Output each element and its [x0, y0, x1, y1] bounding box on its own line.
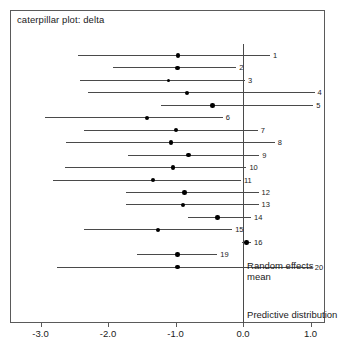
point-estimate-marker: [169, 140, 174, 145]
x-axis-tick-label: 0.0: [236, 328, 249, 339]
point-estimate-marker: [175, 265, 180, 270]
interval-row: 15: [0, 224, 338, 235]
x-axis-tick: [176, 323, 177, 327]
interval-row: 4: [0, 87, 338, 98]
page-title: caterpillar plot: delta: [17, 14, 104, 25]
point-estimate-marker: [186, 153, 191, 158]
confidence-interval-line: [45, 117, 223, 118]
confidence-interval-line: [78, 55, 270, 56]
point-estimate-marker: [171, 165, 176, 170]
study-label: 15: [235, 224, 243, 235]
interval-row: 1: [0, 50, 338, 61]
point-estimate-marker: [174, 128, 179, 133]
point-estimate-marker: [244, 240, 249, 245]
study-label: 10: [249, 162, 257, 173]
x-axis-tick-label: 1.0: [304, 328, 317, 339]
point-estimate-marker: [210, 103, 215, 108]
study-label: 13: [262, 199, 270, 210]
x-axis-tick-label: -1.0: [167, 328, 183, 339]
plot-annotation: Random effects mean: [247, 260, 325, 283]
point-estimate-marker: [176, 53, 181, 58]
interval-row: 5: [0, 100, 338, 111]
confidence-interval-line: [84, 130, 257, 131]
point-estimate-marker: [175, 66, 180, 71]
confidence-interval-line: [65, 167, 246, 168]
study-label: 8: [278, 137, 282, 148]
point-estimate-marker: [145, 116, 150, 121]
interval-row: 14: [0, 212, 338, 223]
study-label: 11: [244, 175, 252, 186]
study-label: 14: [254, 212, 262, 223]
plot-annotation: Predictive distribution: [247, 309, 337, 321]
study-label: 1: [273, 50, 277, 61]
study-label: 16: [254, 237, 262, 248]
study-label: 6: [226, 112, 230, 123]
x-axis-tick: [41, 323, 42, 327]
study-label: 12: [262, 187, 270, 198]
point-estimate-marker: [167, 79, 170, 82]
confidence-interval-line: [53, 180, 241, 181]
interval-row: 3: [0, 75, 338, 86]
point-estimate-marker: [156, 228, 161, 233]
study-label: 9: [262, 150, 266, 161]
interval-row: 8: [0, 137, 338, 148]
interval-row: 16: [0, 237, 338, 248]
point-estimate-marker: [175, 252, 180, 257]
confidence-interval-line: [80, 80, 245, 81]
interval-row: 12: [0, 187, 338, 198]
study-label: 19: [220, 249, 228, 260]
study-label: 4: [318, 87, 322, 98]
point-estimate-marker: [151, 178, 156, 183]
study-label: 2: [239, 62, 243, 73]
confidence-interval-line: [126, 192, 258, 193]
interval-row: 10: [0, 162, 338, 173]
point-estimate-marker: [215, 215, 220, 220]
x-axis-tick-label: -2.0: [100, 328, 116, 339]
interval-row: 13: [0, 199, 338, 210]
x-axis-tick: [243, 323, 244, 327]
interval-row: 2: [0, 62, 338, 73]
interval-row: 11: [0, 175, 338, 186]
confidence-interval-line: [88, 92, 315, 93]
study-label: 5: [316, 100, 320, 111]
point-estimate-marker: [185, 91, 190, 96]
study-label: 7: [261, 125, 265, 136]
confidence-interval-line: [128, 155, 259, 156]
interval-row: 7: [0, 125, 338, 136]
interval-row: 19: [0, 249, 338, 260]
x-axis-tick-label: -3.0: [32, 328, 48, 339]
point-estimate-marker: [182, 190, 187, 195]
x-axis-tick: [108, 323, 109, 327]
confidence-interval-line: [161, 105, 313, 106]
caterpillar-plot-figure: caterpillar plot: delta 1234567891011121…: [0, 0, 338, 354]
interval-row: 6: [0, 112, 338, 123]
study-label: 3: [248, 75, 252, 86]
interval-row: 9: [0, 150, 338, 161]
confidence-interval-line: [126, 204, 258, 205]
x-axis-tick: [311, 323, 312, 327]
point-estimate-marker: [181, 203, 186, 208]
x-axis: -3.0-2.0-1.00.01.0: [0, 323, 338, 354]
